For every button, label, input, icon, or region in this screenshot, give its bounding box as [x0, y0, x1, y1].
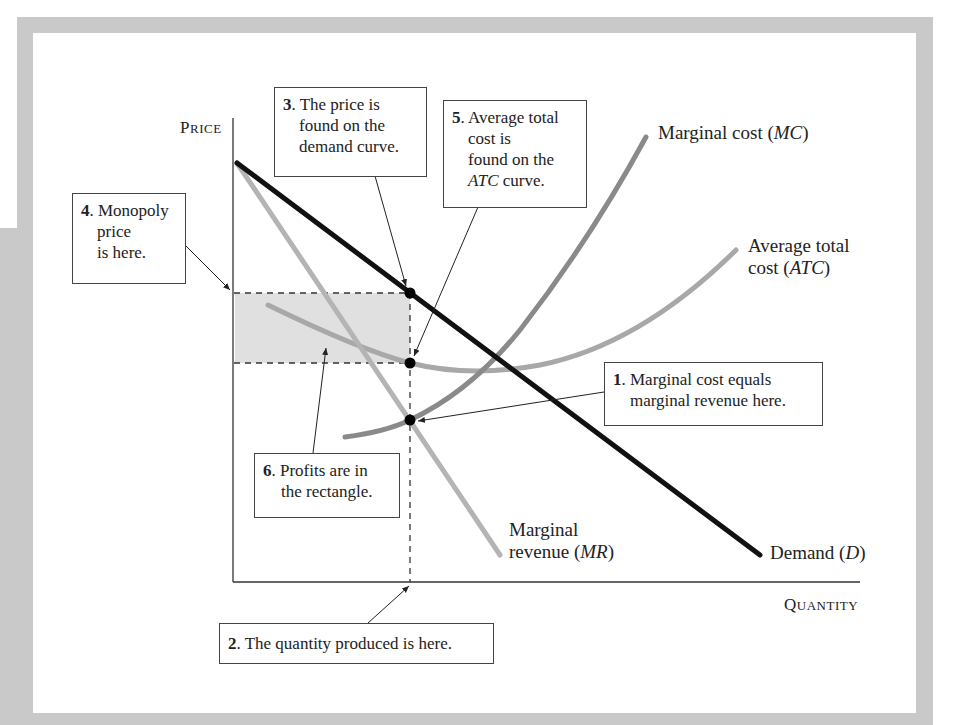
- callout-1-mc-equals-mr: 1. Marginal cost equals marginal revenue…: [604, 362, 823, 426]
- callout-1-number: 1: [613, 370, 622, 389]
- mr-label-line2: revenue (MR): [509, 541, 614, 563]
- leader-4: [185, 245, 230, 290]
- callout-5-line1: . Average total: [461, 108, 559, 127]
- callout-5-line4-rest: curve.: [499, 171, 545, 190]
- mr-label: Marginal revenue (MR): [509, 519, 614, 563]
- price-point: [405, 288, 416, 299]
- mc-mr-point: [405, 415, 416, 426]
- mc-label: Marginal cost (MC): [658, 122, 809, 144]
- callout-4-monopoly-price: 4. Monopoly price is here.: [72, 193, 186, 284]
- callout-6-line1: . Profits are in: [272, 461, 368, 480]
- callout-3-line2: found on the: [283, 115, 418, 136]
- callout-2-text: . The quantity produced is here.: [237, 634, 452, 653]
- mc-label-text: Marginal cost (: [658, 122, 774, 143]
- callout-5-atc: 5. Average total cost is found on the AT…: [443, 100, 587, 208]
- callout-3-number: 3: [283, 95, 292, 114]
- demand-label-abbr: D: [845, 542, 859, 563]
- callout-5-number: 5: [452, 108, 461, 127]
- x-label-initial: Q: [784, 595, 797, 614]
- x-label-rest: UANTITY: [797, 598, 858, 613]
- callout-1-body: 1. Marginal cost equals: [613, 369, 814, 390]
- atc-label-close: ): [824, 257, 830, 278]
- leader-6: [313, 348, 326, 453]
- y-axis-label: PRICE: [180, 118, 222, 138]
- callout-1-line1: . Marginal cost equals: [622, 370, 772, 389]
- atc-label-line1: Average total: [748, 235, 849, 257]
- demand-label: Demand (D): [770, 542, 866, 564]
- callout-6-line2: the rectangle.: [263, 481, 391, 502]
- y-label-rest: RICE: [190, 121, 222, 136]
- demand-label-text: Demand (: [770, 542, 845, 563]
- callout-5-body: 5. Average total: [452, 107, 578, 128]
- mc-label-abbr: MC: [774, 122, 803, 143]
- callout-6-number: 6: [263, 461, 272, 480]
- callout-5-line4: ATC curve.: [452, 170, 578, 191]
- atc-label: Average total cost (ATC): [748, 235, 849, 279]
- atc-point: [405, 358, 416, 369]
- callout-4-body: 4. Monopoly: [81, 200, 177, 221]
- callout-4-line1: . Monopoly: [90, 201, 169, 220]
- callout-1-line2: marginal revenue here.: [613, 390, 814, 411]
- callout-4-number: 4: [81, 201, 90, 220]
- mr-label-line1: Marginal: [509, 519, 614, 541]
- mr-label-close: ): [608, 541, 614, 562]
- callout-6-profits: 6. Profits are in the rectangle.: [254, 453, 400, 518]
- callout-3-body: 3. The price is: [283, 94, 418, 115]
- atc-label-abbr: ATC: [790, 257, 824, 278]
- callout-4-line2: price: [81, 221, 177, 242]
- callout-5-line2: cost is: [452, 128, 578, 149]
- x-axis-label: QUANTITY: [784, 595, 858, 615]
- callout-3-line3: demand curve.: [283, 136, 418, 157]
- callout-3-line1: . The price is: [292, 95, 380, 114]
- callout-2-number: 2: [228, 634, 237, 653]
- callout-4-line3: is here.: [81, 242, 177, 263]
- atc-label-text: cost (: [748, 257, 790, 278]
- demand-label-close: ): [859, 542, 865, 563]
- leader-2: [368, 586, 409, 623]
- callout-6-body: 6. Profits are in: [263, 460, 391, 481]
- callout-2-quantity: 2. The quantity produced is here.: [219, 623, 494, 664]
- atc-label-line2: cost (ATC): [748, 257, 849, 279]
- mr-label-text: revenue (: [509, 541, 580, 562]
- callout-5-abbr: ATC: [468, 171, 499, 190]
- mc-label-close: ): [802, 122, 808, 143]
- mr-label-abbr: MR: [580, 541, 607, 562]
- callout-5-line3: found on the: [452, 149, 578, 170]
- callout-3-price-on-demand: 3. The price is found on the demand curv…: [274, 87, 427, 177]
- y-label-initial: P: [180, 118, 190, 137]
